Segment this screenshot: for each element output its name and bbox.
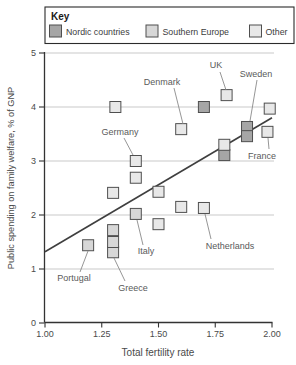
nordic-swatch-icon [50,25,62,37]
country-annotations: DenmarkUKSwedenFranceGermanyItalyNetherl… [57,60,276,293]
callout-line-netherlands [205,214,211,239]
legend-label-other: Other [266,27,288,37]
country-label-portugal: Portugal [57,273,91,283]
y-tick-label-0: 0 [31,318,36,328]
y-axis-title: Public spending on family welfare, % of … [6,87,16,269]
data-point-denmark [176,124,187,135]
x-tick-label-1.00: 1.00 [36,329,54,339]
trend-line [45,118,272,252]
callout-line-uk [220,72,226,90]
y-tick-label-1: 1 [31,264,36,274]
data-point-nordic-0 [198,102,209,113]
country-label-denmark: Denmark [144,77,181,87]
legend-label-southern: Southern Europe [163,27,230,37]
data-point-other-7 [130,172,141,183]
data-point-italy [130,208,141,219]
data-point-netherlands [198,202,209,213]
country-label-uk: UK [210,60,223,70]
other-swatch-icon [250,25,262,37]
callout-line-denmark [174,88,183,124]
country-label-germany: Germany [101,127,139,137]
key-title: Key [51,11,70,22]
country-label-sweden: Sweden [240,69,273,79]
data-point-germany [130,156,141,167]
country-label-france: France [248,151,276,161]
x-tick-label-1.25: 1.25 [93,329,111,339]
country-label-italy: Italy [138,246,155,256]
data-point-portugal [83,240,94,251]
y-tick-label-5: 5 [31,48,36,58]
legend-key: Key Nordic countries Southern Europe Oth… [45,7,294,44]
data-point-greece [108,247,119,258]
data-point-other-5 [219,139,230,150]
callout-line-italy [137,220,143,245]
data-point-other-8 [108,187,119,198]
legend-item-other: Other [250,25,288,37]
legend-item-southern: Southern Europe [146,25,229,37]
data-point-uk [221,90,232,101]
data-point-other-12 [153,219,164,230]
callout-line-france [268,138,269,149]
data-point-france [262,126,273,137]
southern-swatch-icon [146,25,158,37]
country-label-greece: Greece [118,283,148,293]
legend-item-nordic: Nordic countries [50,25,131,37]
callout-line-sweden [250,80,257,121]
regression-line [45,118,272,252]
data-point-other-9 [153,186,164,197]
chart-canvas: Key Nordic countries Southern Europe Oth… [0,0,296,365]
x-axis-title: Total fertility rate [122,347,195,358]
y-tick-label-2: 2 [31,210,36,220]
data-point-nordic-3 [219,150,230,161]
data-point-southern-3 [108,225,119,236]
legend-label-nordic: Nordic countries [66,27,130,37]
data-point-nordic-2 [242,131,253,142]
y-tick-label-4: 4 [31,102,36,112]
y-tick-label-3: 3 [31,156,36,166]
callout-line-germany [124,138,133,155]
country-label-netherlands: Netherlands [206,241,255,251]
x-tick-label-1.75: 1.75 [206,329,224,339]
data-point-other-0 [110,102,121,113]
x-tick-label-1.50: 1.50 [150,329,168,339]
fertility-welfare-figure: Key Nordic countries Southern Europe Oth… [0,0,296,365]
x-tick-label-2.00: 2.00 [263,329,281,339]
data-point-southern-2 [108,237,119,248]
data-point-other-10 [176,201,187,212]
data-points [83,90,276,258]
data-point-other-2 [264,103,275,114]
